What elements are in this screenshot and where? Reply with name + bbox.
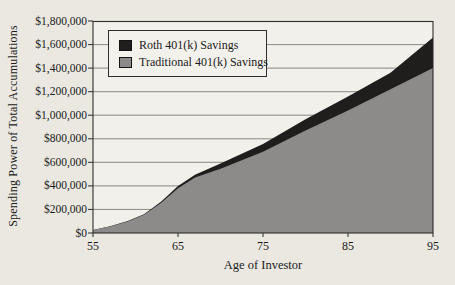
x-tick-label: 75 — [257, 239, 269, 254]
y-tick-label: $0 — [0, 227, 87, 240]
chart-figure: Spending Power of Total Accumulations $0… — [0, 0, 455, 285]
x-tick-label: 95 — [427, 239, 439, 254]
y-tick-label: $800,000 — [0, 132, 87, 145]
y-tick-label: $1,400,000 — [0, 62, 87, 75]
y-tick-label: $1,800,000 — [0, 15, 87, 28]
legend-row: Roth 401(k) Savings — [119, 37, 266, 54]
x-axis-title: Age of Investor — [224, 258, 302, 273]
y-tick-label: $1,000,000 — [0, 109, 87, 122]
legend-label: Traditional 401(k) Savings — [139, 55, 268, 70]
y-tick-label: $600,000 — [0, 156, 87, 169]
legend-row: Traditional 401(k) Savings — [119, 54, 266, 71]
y-tick-label: $400,000 — [0, 179, 87, 192]
y-axis-title: Spending Power of Total Accumulations — [6, 25, 21, 227]
legend-swatch-traditional — [119, 57, 132, 68]
y-tick-label: $1,200,000 — [0, 85, 87, 98]
x-tick-label: 85 — [342, 239, 354, 254]
legend-label: Roth 401(k) Savings — [139, 38, 238, 53]
legend-box: Roth 401(k) SavingsTraditional 401(k) Sa… — [108, 30, 267, 77]
y-tick-label: $200,000 — [0, 203, 87, 216]
x-tick-label: 55 — [87, 239, 99, 254]
x-tick-label: 65 — [172, 239, 184, 254]
y-tick-label: $1,600,000 — [0, 38, 87, 51]
legend-swatch-roth — [119, 40, 132, 51]
